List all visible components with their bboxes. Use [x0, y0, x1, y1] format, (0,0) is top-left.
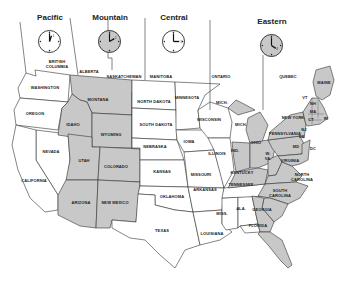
label-delaware: DE — [299, 134, 305, 139]
svg-text:1: 1 — [52, 34, 54, 38]
label-connecticut: CT — [308, 117, 314, 122]
region-wyoming — [92, 113, 132, 148]
label-arkansas: ARKANSAS — [193, 187, 216, 192]
label-virginia: VIRGINIA — [281, 158, 300, 163]
zone-title-central: Central — [144, 13, 204, 22]
label-nevada: NEVADA — [42, 149, 59, 154]
region-michigan — [246, 112, 268, 143]
label-texas: TEXAS — [155, 228, 169, 233]
label-new-hampshire: NH — [310, 101, 316, 106]
label-georgia: GEORGIA — [252, 207, 272, 212]
label-colorado: COLORADO — [104, 164, 128, 169]
label-california: CALIFORNIA — [21, 178, 47, 183]
zone-title-mountain: Mountain — [80, 13, 140, 22]
clock-icon-central: 3 — [161, 29, 186, 54]
label-vermont: VT — [302, 95, 307, 100]
label-quebec: QUEBEC — [279, 74, 297, 79]
label-ohio: OHIO — [251, 140, 262, 145]
label-north-carolina-2: CAROLINA — [291, 177, 313, 182]
label-oregon: OREGON — [26, 111, 44, 116]
label-arizona: ARIZONA — [72, 200, 91, 205]
label-south-dakota: SOUTH DAKOTA — [139, 122, 172, 127]
label-pennsylvania: PENNSYLVANIA — [269, 131, 301, 136]
svg-text:2: 2 — [115, 36, 117, 40]
label-north-dakota: NORTH DAKOTA — [137, 99, 170, 104]
label-kansas: KANSAS — [153, 169, 171, 174]
label-alabama: ALA. — [236, 206, 246, 211]
clock-icon-pacific: 1 — [37, 29, 62, 54]
label-west-virginia-2: VA. — [265, 156, 272, 161]
label-tennessee: TENNESSEE — [228, 182, 253, 187]
zone-title-eastern: Eastern — [242, 17, 302, 26]
region-nebraska — [132, 138, 184, 160]
label-missouri: MISSOURI — [191, 172, 212, 177]
label-new-jersey: NJ — [301, 127, 306, 132]
region-michigan-up — [228, 100, 255, 115]
label-minnesota: MINNESOTA — [175, 95, 200, 100]
label-south-carolina-2: CAROLINA — [269, 193, 291, 198]
label-ontario: ONTARIO — [212, 74, 231, 79]
label-oklahoma: OKLAHOMA — [160, 194, 184, 199]
label-manitoba: MANITOBA — [150, 74, 172, 79]
label-nebraska: NEBRASKA — [143, 144, 166, 149]
label-washington: WASHINGTON — [31, 85, 59, 90]
label-saskatchewan: SASKATCHEWAN — [106, 74, 141, 79]
label-iowa: IOWA — [183, 139, 194, 144]
label-maine: MAINE — [317, 80, 330, 85]
label-maryland: MD — [293, 144, 299, 149]
svg-text:3: 3 — [180, 40, 182, 44]
label-new-york: NEW YORK — [282, 115, 305, 120]
zone-title-pacific: Pacific — [20, 13, 80, 22]
label-dc: DC — [310, 146, 316, 151]
label-alberta: ALBERTA — [79, 69, 99, 74]
label-wisconsin: WISCONSIN — [197, 117, 221, 122]
label-louisiana: LOUISIANA — [201, 231, 224, 236]
label-british-columbia-2: COLUMBIA — [46, 64, 68, 69]
label-illinois: ILLINOIS — [208, 151, 226, 156]
label-kentucky: KENTUCKY — [230, 170, 253, 175]
label-idaho: IDAHO — [66, 122, 79, 127]
clock-icon-mountain: 2 — [97, 29, 122, 54]
region-north-dakota — [132, 80, 176, 110]
label-rhode-island: RI — [324, 116, 328, 121]
label-mississippi: MISS. — [216, 211, 227, 216]
label-michigan: MICH. — [235, 122, 247, 127]
clock-icon-eastern: 4 — [259, 33, 284, 58]
label-wyoming: WYOMING — [101, 132, 122, 137]
region-florida — [258, 232, 292, 268]
label-new-mexico: NEW MEXICO — [101, 200, 128, 205]
label-montana: MONTANA — [88, 97, 109, 102]
label-indiana: IND. — [231, 148, 239, 153]
region-indiana — [232, 142, 250, 172]
label-florida: FLORIDA — [249, 223, 267, 228]
svg-text:4: 4 — [276, 47, 278, 51]
label-utah: UTAH — [78, 158, 89, 163]
label-michigan-up: MICH. — [216, 100, 228, 105]
label-massachusetts: MA — [310, 109, 316, 114]
